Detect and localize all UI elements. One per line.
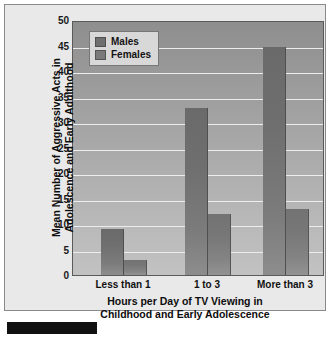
- y-axis-title-line-1: Mean Number of Aggressive Acts in: [50, 23, 63, 273]
- x-axis-title-line-2: Childhood and Early Adolescence: [45, 308, 325, 321]
- legend: Males Females: [89, 31, 159, 66]
- legend-item-females: Females: [95, 48, 151, 61]
- x-axis-tick-labels: Less than 1 1 to 3 More than 3: [72, 279, 324, 293]
- legend-swatch-males-icon: [95, 37, 106, 47]
- bar-females-more-than-3: [286, 209, 309, 275]
- chart-panel: 50 45 40 35 30 25 20 15 10 5 0: [4, 4, 326, 311]
- plot-area: Males Females: [72, 21, 324, 276]
- bottom-black-marker: [7, 322, 97, 334]
- x-tick-more-than-3: More than 3: [257, 279, 313, 290]
- legend-swatch-females-icon: [95, 50, 106, 60]
- x-tick-1-to-3: 1 to 3: [194, 279, 220, 290]
- x-tick-less-than-1: Less than 1: [95, 279, 150, 290]
- y-axis-title-line-2: Adolescence and Early Adulthood: [62, 23, 75, 273]
- x-axis-title: Hours per Day of TV Viewing in Childhood…: [45, 295, 325, 320]
- bar-males-1-to-3: [185, 108, 208, 275]
- y-tick-0: 0: [29, 271, 69, 281]
- legend-label-females: Females: [111, 49, 151, 60]
- bar-males-less-than-1: [101, 229, 124, 275]
- bar-females-1-to-3: [208, 214, 231, 275]
- bar-females-less-than-1: [124, 260, 147, 275]
- x-axis-title-line-1: Hours per Day of TV Viewing in: [45, 295, 325, 308]
- bar-males-more-than-3: [263, 47, 286, 275]
- y-axis-title: Mean Number of Aggressive Acts in Adoles…: [50, 23, 75, 273]
- legend-item-males: Males: [95, 35, 151, 48]
- legend-label-males: Males: [111, 36, 139, 47]
- figure: 50 45 40 35 30 25 20 15 10 5 0: [0, 0, 334, 340]
